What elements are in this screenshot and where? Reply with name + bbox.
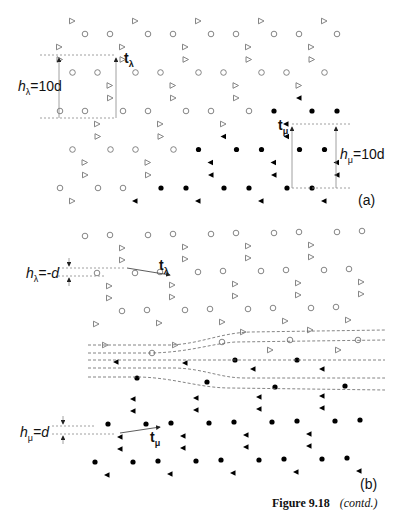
open-circle-site — [346, 266, 352, 272]
open-circle-site — [183, 108, 189, 114]
open-tri-site — [146, 172, 152, 178]
open-circle-site — [82, 233, 88, 239]
open-tri-site — [95, 121, 101, 127]
open-tri-site — [283, 318, 289, 324]
open-tri-site — [108, 95, 114, 101]
open-tri-site — [246, 57, 252, 63]
open-circle-site — [170, 231, 176, 237]
open-tri-site — [233, 83, 239, 89]
open-tri-site — [183, 57, 189, 63]
open-tri-site — [158, 121, 164, 127]
open-tri-site — [120, 44, 126, 50]
open-tri-site — [57, 44, 63, 50]
filled-circle-site — [271, 108, 276, 113]
open-circle-site — [245, 306, 251, 312]
open-tri-site — [296, 83, 302, 89]
filled-tri-site — [117, 446, 123, 452]
panel-a-h-mu-label: hμ=10d — [340, 146, 385, 165]
filled-circle-site — [284, 185, 289, 190]
filled-circle-site — [231, 419, 236, 424]
filled-tri-site — [356, 468, 362, 474]
filled-tri-site — [319, 405, 325, 411]
open-tri-site — [309, 254, 315, 260]
filled-tri-site — [258, 198, 264, 204]
filled-circle-site — [158, 185, 163, 190]
open-circle-site — [195, 269, 201, 275]
filled-circle-site — [130, 459, 135, 464]
open-tri-site — [107, 283, 113, 289]
open-circle-site — [119, 308, 125, 314]
filled-circle-site — [168, 420, 173, 425]
panel-b-tag: (b) — [360, 476, 377, 492]
filled-circle-site — [206, 420, 211, 425]
open-circle-site — [258, 268, 264, 274]
filled-circle-site — [259, 147, 264, 152]
open-circle-site — [158, 70, 164, 76]
filled-tri-site — [195, 198, 201, 204]
open-tri-site — [107, 295, 113, 301]
open-circle-site — [287, 337, 293, 343]
filled-circle-site — [344, 455, 349, 460]
open-tri-site — [157, 320, 163, 326]
filled-tri-site — [334, 172, 340, 178]
open-tri-site — [183, 256, 189, 262]
filled-tri-site — [319, 366, 325, 372]
panel-a-h-lambda-label: hλ=10d — [18, 78, 62, 97]
filled-tri-site — [296, 95, 302, 101]
filled-circle-site — [134, 375, 139, 380]
panel-a-lattice — [57, 18, 340, 204]
open-circle-site — [284, 70, 290, 76]
open-tri-site — [346, 317, 352, 323]
open-circle-site — [133, 147, 139, 153]
open-circle-site — [270, 305, 276, 311]
filled-tri-site — [306, 431, 312, 437]
filled-tri-site — [319, 393, 325, 399]
filled-tri-site — [208, 160, 214, 166]
open-tri-site — [82, 160, 88, 166]
open-tri-site — [308, 327, 314, 333]
open-circle-site — [108, 147, 114, 153]
open-circle-site — [95, 185, 101, 191]
open-circle-site — [196, 70, 202, 76]
open-tri-site — [220, 319, 226, 325]
filled-tri-site — [193, 395, 199, 401]
filled-tri-site — [180, 445, 186, 451]
open-circle-site — [171, 147, 177, 153]
filled-tri-site — [132, 198, 138, 204]
panel-a-tag: (a) — [358, 192, 375, 208]
open-tri-site — [170, 282, 176, 288]
open-circle-site — [321, 267, 327, 273]
filled-circle-site — [246, 185, 251, 190]
open-tri-site — [57, 57, 63, 63]
open-tri-site — [309, 242, 315, 248]
open-circle-site — [333, 304, 339, 310]
open-circle-site — [322, 70, 328, 76]
filled-tri-site — [208, 172, 214, 178]
open-circle-site — [70, 70, 76, 76]
open-circle-site — [208, 231, 214, 237]
open-circle-site — [259, 70, 265, 76]
filled-tri-site — [243, 432, 249, 438]
filled-circle-site — [218, 457, 223, 462]
filled-tri-site — [250, 366, 256, 372]
open-circle-site — [145, 108, 151, 114]
open-circle-site — [133, 70, 139, 76]
open-tri-site — [158, 134, 164, 140]
open-tri-site — [171, 95, 177, 101]
open-circle-site — [334, 31, 340, 37]
filled-circle-site — [309, 108, 314, 113]
filled-tri-site — [193, 407, 199, 413]
open-circle-site — [271, 31, 277, 37]
open-tri-site — [233, 293, 239, 299]
filled-tri-site — [271, 172, 277, 178]
filled-tri-site — [230, 470, 236, 476]
open-tri-site — [183, 44, 189, 50]
open-circle-site — [283, 267, 289, 273]
filled-tri-site — [306, 443, 312, 449]
open-circle-site — [107, 31, 113, 37]
open-tri-site — [336, 347, 342, 353]
panel-b-h-mu-guides — [52, 416, 160, 444]
open-tri-site — [309, 44, 315, 50]
open-circle-site — [296, 229, 302, 235]
panel-a-t-lambda-label: tλ — [124, 50, 134, 69]
